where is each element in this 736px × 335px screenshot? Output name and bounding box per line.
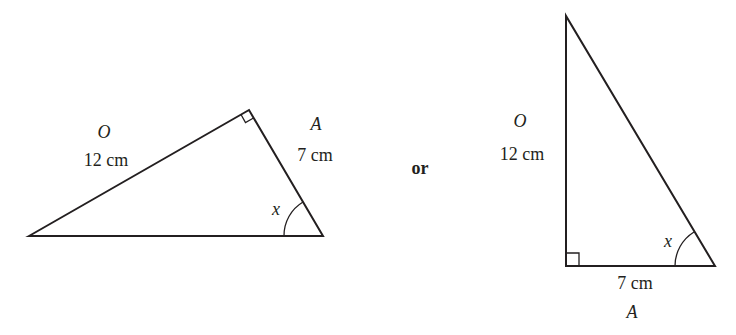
right-opposite-symbol: O <box>514 111 527 131</box>
right-adjacent-length: 7 cm <box>617 273 653 293</box>
left-opposite-symbol: O <box>98 122 111 142</box>
left-adjacent-symbol: A <box>310 114 323 134</box>
right-right-angle-marker <box>566 253 579 266</box>
right-triangle: O 12 cm 7 cm A x <box>500 16 715 322</box>
trig-diagram: O 12 cm A 7 cm x or O 12 cm 7 cm A x <box>0 0 736 335</box>
right-triangle-outline <box>566 16 715 266</box>
left-angle-label: x <box>271 199 280 219</box>
left-opposite-length: 12 cm <box>84 150 129 170</box>
left-triangle: O 12 cm A 7 cm x <box>29 110 333 236</box>
left-angle-arc <box>284 202 303 236</box>
or-connector: or <box>412 158 429 178</box>
right-adjacent-symbol: A <box>626 302 639 322</box>
right-angle-arc <box>675 232 694 266</box>
right-opposite-length: 12 cm <box>500 144 545 164</box>
right-angle-label: x <box>663 231 672 251</box>
left-adjacent-length: 7 cm <box>297 145 333 165</box>
